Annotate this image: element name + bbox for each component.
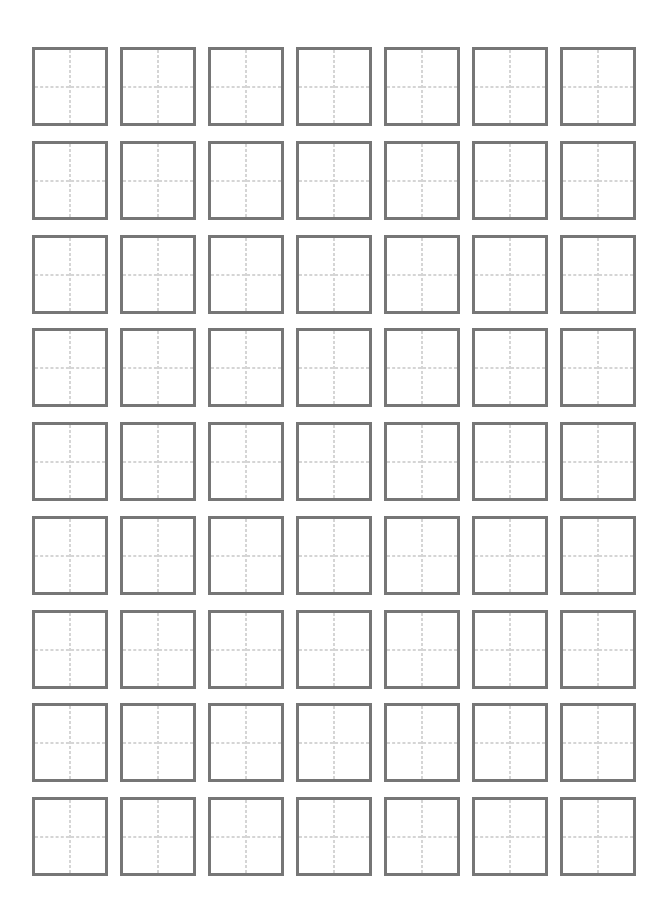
horizontal-guide-line (123, 742, 193, 743)
practice-cell (296, 328, 372, 407)
horizontal-guide-line (387, 649, 457, 650)
practice-cell (472, 47, 548, 126)
practice-cell (472, 422, 548, 501)
practice-cell (560, 328, 636, 407)
practice-cell (296, 797, 372, 876)
horizontal-guide-line (387, 86, 457, 87)
horizontal-guide-line (211, 461, 281, 462)
horizontal-guide-line (211, 649, 281, 650)
practice-cell (120, 422, 196, 501)
practice-cell (296, 235, 372, 314)
horizontal-guide-line (563, 274, 633, 275)
practice-cell (472, 610, 548, 689)
horizontal-guide-line (211, 367, 281, 368)
practice-cell (296, 703, 372, 782)
practice-cell (32, 141, 108, 220)
practice-cell (120, 516, 196, 595)
horizontal-guide-line (475, 274, 545, 275)
practice-cell (384, 328, 460, 407)
horizontal-guide-line (475, 367, 545, 368)
practice-cell (32, 47, 108, 126)
horizontal-guide-line (387, 836, 457, 837)
practice-cell (472, 141, 548, 220)
practice-cell (296, 516, 372, 595)
practice-cell (560, 703, 636, 782)
practice-cell (208, 797, 284, 876)
practice-cell (208, 610, 284, 689)
horizontal-guide-line (299, 742, 369, 743)
practice-cell (472, 516, 548, 595)
horizontal-guide-line (123, 86, 193, 87)
practice-cell (208, 47, 284, 126)
practice-cell (472, 328, 548, 407)
horizontal-guide-line (35, 742, 105, 743)
horizontal-guide-line (123, 180, 193, 181)
practice-cell (120, 610, 196, 689)
horizontal-guide-line (299, 649, 369, 650)
horizontal-guide-line (211, 180, 281, 181)
practice-cell (120, 141, 196, 220)
practice-cell (32, 422, 108, 501)
practice-cell (208, 328, 284, 407)
practice-cell (384, 141, 460, 220)
horizontal-guide-line (387, 180, 457, 181)
practice-cell (32, 235, 108, 314)
practice-cell (472, 797, 548, 876)
practice-cell (296, 422, 372, 501)
practice-cell (208, 422, 284, 501)
horizontal-guide-line (299, 461, 369, 462)
horizontal-guide-line (475, 555, 545, 556)
horizontal-guide-line (563, 461, 633, 462)
horizontal-guide-line (123, 461, 193, 462)
practice-cell (560, 797, 636, 876)
horizontal-guide-line (475, 86, 545, 87)
horizontal-guide-line (211, 836, 281, 837)
horizontal-guide-line (299, 555, 369, 556)
practice-cell (560, 422, 636, 501)
horizontal-guide-line (563, 836, 633, 837)
horizontal-guide-line (123, 555, 193, 556)
horizontal-guide-line (35, 367, 105, 368)
practice-cell (560, 47, 636, 126)
practice-cell (32, 703, 108, 782)
practice-cell (32, 516, 108, 595)
practice-cell (560, 516, 636, 595)
horizontal-guide-line (35, 649, 105, 650)
horizontal-guide-line (387, 367, 457, 368)
practice-cell (560, 141, 636, 220)
horizontal-guide-line (35, 180, 105, 181)
horizontal-guide-line (475, 461, 545, 462)
practice-cell (384, 516, 460, 595)
horizontal-guide-line (387, 274, 457, 275)
practice-cell (208, 141, 284, 220)
horizontal-guide-line (475, 180, 545, 181)
horizontal-guide-line (123, 649, 193, 650)
practice-cell (296, 47, 372, 126)
practice-cell (208, 235, 284, 314)
practice-cell (296, 610, 372, 689)
horizontal-guide-line (35, 274, 105, 275)
horizontal-guide-line (563, 86, 633, 87)
horizontal-guide-line (475, 836, 545, 837)
horizontal-guide-line (123, 836, 193, 837)
horizontal-guide-line (211, 86, 281, 87)
horizontal-guide-line (563, 555, 633, 556)
horizontal-guide-line (387, 555, 457, 556)
practice-cell (384, 797, 460, 876)
horizontal-guide-line (299, 367, 369, 368)
practice-cell (472, 235, 548, 314)
horizontal-guide-line (299, 180, 369, 181)
practice-cell (208, 516, 284, 595)
horizontal-guide-line (35, 86, 105, 87)
horizontal-guide-line (35, 555, 105, 556)
horizontal-guide-line (563, 742, 633, 743)
horizontal-guide-line (387, 461, 457, 462)
horizontal-guide-line (475, 649, 545, 650)
horizontal-guide-line (299, 86, 369, 87)
practice-cell (384, 610, 460, 689)
practice-cell (32, 797, 108, 876)
practice-cell (32, 610, 108, 689)
horizontal-guide-line (563, 180, 633, 181)
horizontal-guide-line (211, 742, 281, 743)
practice-cell (120, 797, 196, 876)
